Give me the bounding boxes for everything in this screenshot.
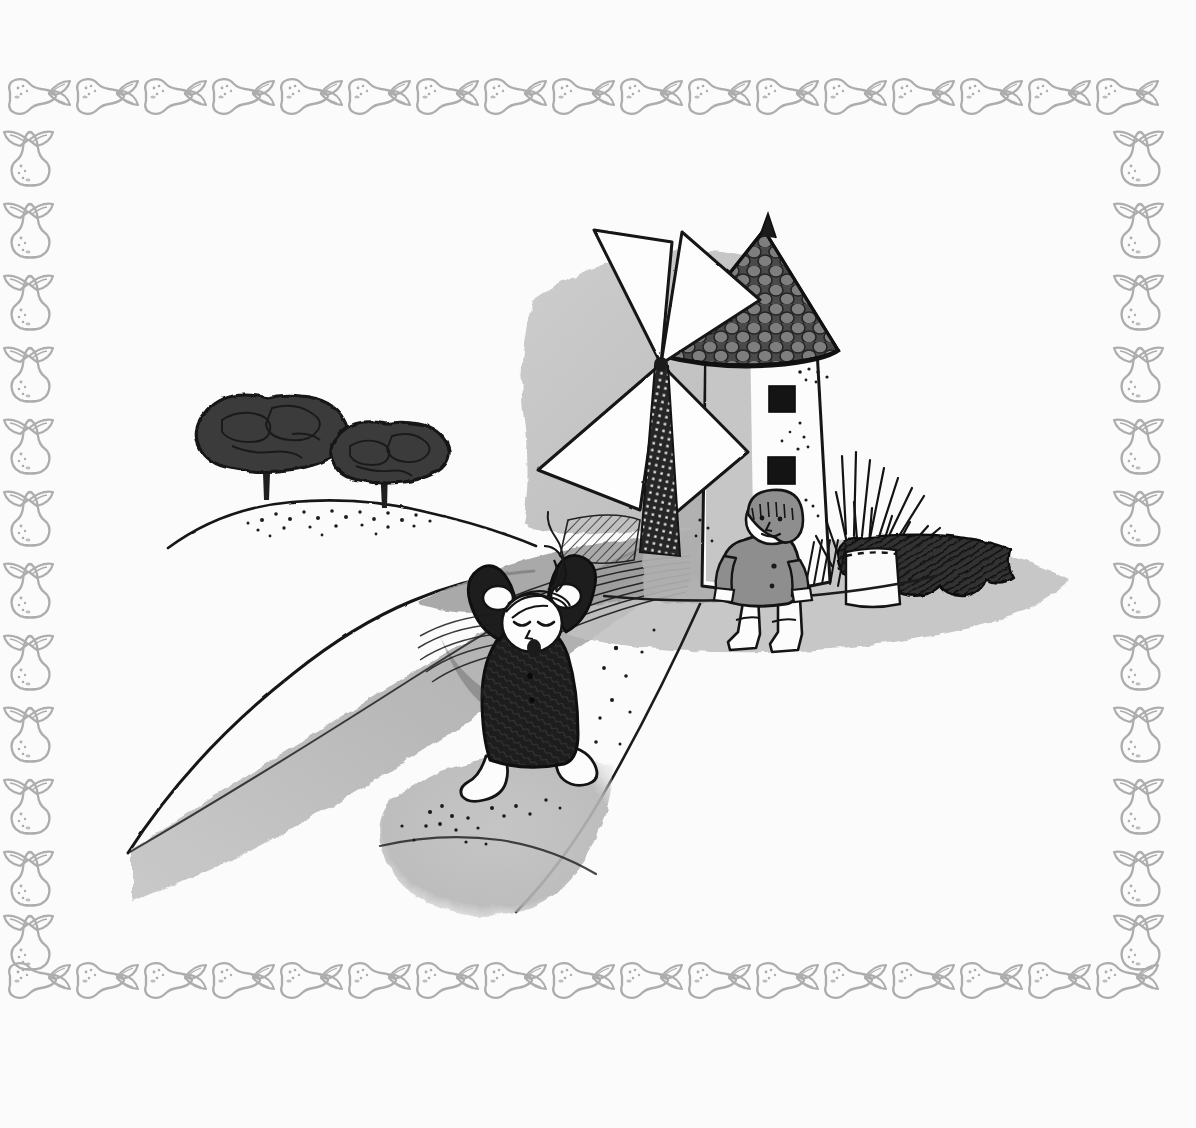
window-lower [768,457,795,484]
window-upper [769,386,795,412]
artwork-canvas [0,0,1196,1128]
sail-hub [654,357,668,371]
standing-eye-left [760,516,765,521]
shouting-mouth [527,639,541,657]
white-panel [846,548,900,607]
standing-eye-right [778,517,783,522]
standing-cuff-left [714,588,734,602]
standing-cuff-right [792,588,812,602]
illustration-page [0,0,1196,1128]
